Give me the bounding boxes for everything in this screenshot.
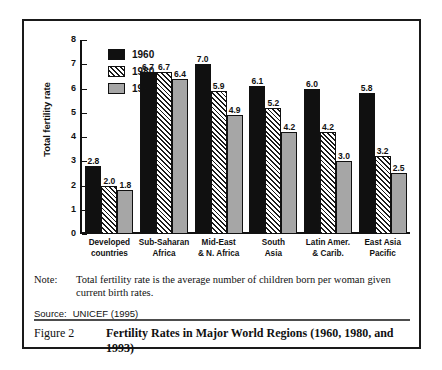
bar-1993[interactable]: 4.2 bbox=[281, 132, 297, 234]
bar-1980[interactable]: 5.9 bbox=[211, 91, 227, 234]
bar-1993[interactable]: 2.5 bbox=[391, 173, 407, 234]
figure-caption: Figure 2 Fertility Rates in Major World … bbox=[34, 326, 413, 356]
note-row: Note: Total fertility rate is the averag… bbox=[34, 273, 413, 299]
bar-value-label: 3.2 bbox=[377, 146, 389, 156]
bar-value-label: 7.0 bbox=[197, 54, 209, 64]
bar-1993[interactable]: 4.9 bbox=[227, 115, 243, 234]
figure-title: Fertility Rates in Major World Regions (… bbox=[106, 326, 413, 356]
y-axis-title: Total fertility rate bbox=[41, 65, 52, 175]
bar-1960[interactable]: 7.0 bbox=[195, 64, 211, 234]
legend-item-1960: 1960 bbox=[108, 46, 180, 63]
bar-1960[interactable]: 6.1 bbox=[249, 86, 265, 234]
bar-group: 7.05.94.9 bbox=[195, 40, 243, 234]
bar-1960[interactable]: 2.8 bbox=[85, 166, 101, 234]
category-label-line: Pacific bbox=[343, 249, 423, 260]
y-tick-mark bbox=[82, 234, 87, 235]
bar-value-label: 1.8 bbox=[119, 180, 131, 190]
bar-1993[interactable]: 6.4 bbox=[172, 79, 188, 234]
chart-legend: 1960 1980 1993 bbox=[108, 46, 180, 97]
bar-1980[interactable]: 5.2 bbox=[265, 108, 281, 234]
y-tick-label: 2 bbox=[71, 180, 76, 191]
bar-1993[interactable]: 1.8 bbox=[117, 190, 133, 234]
note-block: Note: Total fertility rate is the averag… bbox=[34, 273, 413, 319]
y-tick-label: 4 bbox=[71, 131, 76, 142]
legend-item-1980: 1980 bbox=[108, 63, 180, 80]
category-label-line: East Asia bbox=[343, 238, 423, 249]
source-label: Source: bbox=[34, 308, 67, 319]
bar-1980[interactable]: 3.2 bbox=[375, 156, 391, 234]
bar-value-label: 5.8 bbox=[361, 83, 373, 93]
caption-divider bbox=[34, 319, 410, 321]
note-label: Note: bbox=[34, 273, 76, 286]
bar-1960[interactable]: 6.0 bbox=[304, 89, 320, 235]
bar-value-label: 2.8 bbox=[87, 156, 99, 166]
bar-value-label: 5.9 bbox=[213, 81, 225, 91]
source-row: Source: UNICEF (1995) bbox=[34, 308, 413, 319]
y-tick-label: 3 bbox=[71, 155, 76, 166]
legend-label-1993: 1993 bbox=[132, 83, 154, 94]
bar-value-label: 2.0 bbox=[103, 176, 115, 186]
legend-item-1993: 1993 bbox=[108, 80, 180, 97]
source-text: UNICEF (1995) bbox=[73, 308, 138, 319]
bar-value-label: 4.2 bbox=[322, 122, 334, 132]
legend-label-1980: 1980 bbox=[132, 66, 154, 77]
legend-swatch-1980 bbox=[108, 66, 125, 77]
bar-value-label: 4.9 bbox=[229, 105, 241, 115]
bar-value-label: 6.1 bbox=[251, 76, 263, 86]
y-tick-label: 8 bbox=[71, 34, 76, 45]
bar-1980[interactable]: 2.0 bbox=[101, 186, 117, 235]
bar-group: 6.15.24.2 bbox=[249, 40, 297, 234]
note-text: Total fertility rate is the average numb… bbox=[76, 273, 413, 299]
bar-value-label: 2.5 bbox=[393, 163, 405, 173]
legend-swatch-1993 bbox=[108, 83, 125, 94]
y-tick-label: 7 bbox=[71, 58, 76, 69]
figure-box: Total fertility rate 012345678 2.82.01.8… bbox=[22, 19, 421, 349]
bar-1993[interactable]: 3.0 bbox=[336, 161, 352, 234]
bar-group: 5.83.22.5 bbox=[359, 40, 407, 234]
legend-swatch-1960 bbox=[108, 49, 125, 60]
bar-group: 6.04.23.0 bbox=[304, 40, 352, 234]
chart-plot-region: Total fertility rate 012345678 2.82.01.8… bbox=[24, 26, 419, 276]
bar-value-label: 4.2 bbox=[283, 122, 295, 132]
bar-value-label: 5.2 bbox=[267, 98, 279, 108]
category-label: East AsiaPacific bbox=[343, 238, 423, 259]
y-tick-label: 5 bbox=[71, 107, 76, 118]
y-tick-label: 1 bbox=[71, 204, 76, 215]
bar-1980[interactable]: 4.2 bbox=[320, 132, 336, 234]
y-tick-label: 6 bbox=[71, 83, 76, 94]
figure-number: Figure 2 bbox=[34, 326, 106, 341]
bar-value-label: 6.0 bbox=[306, 79, 318, 89]
bar-1960[interactable]: 5.8 bbox=[359, 93, 375, 234]
category-labels: DevelopedcountriesSub-SaharanAfricaMid-E… bbox=[82, 238, 410, 272]
bar-value-label: 3.0 bbox=[338, 151, 350, 161]
legend-label-1960: 1960 bbox=[132, 49, 154, 60]
